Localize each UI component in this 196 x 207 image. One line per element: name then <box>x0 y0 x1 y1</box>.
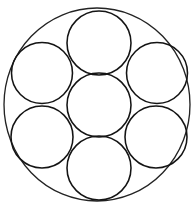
figure-root <box>0 0 196 207</box>
circle-packing-diagram <box>0 0 196 207</box>
canvas-background <box>0 0 196 207</box>
